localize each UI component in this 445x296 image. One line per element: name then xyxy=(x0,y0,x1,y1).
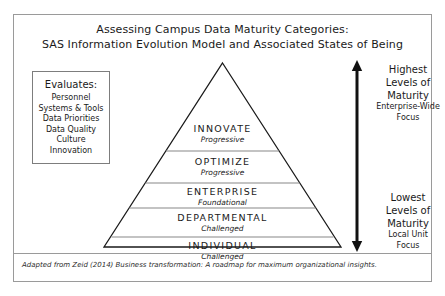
lowest-sub-line: Focus xyxy=(366,241,445,252)
tier-name: ENTERPRISE xyxy=(100,186,345,198)
maturity-pyramid: INNOVATE Progressive OPTIMIZE Progressiv… xyxy=(100,59,345,254)
highest-maturity-label: Highest Levels of Maturity Enterprise-Wi… xyxy=(366,63,445,123)
tier-name: OPTIMIZE xyxy=(100,156,345,168)
figure-container: Assessing Campus Data Maturity Categorie… xyxy=(13,14,432,282)
evaluates-item: Data Priorities xyxy=(35,114,107,125)
lowest-title-line: Maturity xyxy=(366,217,445,230)
evaluates-item: Data Quality xyxy=(35,125,107,136)
highest-sub-line: Focus xyxy=(366,113,445,124)
evaluates-item: Systems & Tools xyxy=(35,104,107,115)
evaluates-item: Culture xyxy=(35,135,107,146)
highest-sub-line: Enterprise-Wide xyxy=(366,102,445,113)
evaluates-item: Innovation xyxy=(35,146,107,157)
evaluates-item: Personnel xyxy=(35,93,107,104)
tier-state: Progressive xyxy=(100,168,345,178)
lowest-title-line: Levels of xyxy=(366,204,445,217)
double-headed-vertical-arrow-icon xyxy=(350,60,364,252)
tier-innovate: INNOVATE Progressive xyxy=(100,123,345,145)
title-line-2: SAS Information Evolution Model and Asso… xyxy=(14,37,431,52)
tier-optimize: OPTIMIZE Progressive xyxy=(100,156,345,178)
highest-title-line: Highest xyxy=(366,63,445,76)
tier-state: Foundational xyxy=(100,198,345,208)
tier-enterprise: ENTERPRISE Foundational xyxy=(100,186,345,208)
lowest-maturity-label: Lowest Levels of Maturity Local Unit Foc… xyxy=(366,191,445,251)
footer-divider xyxy=(14,253,431,254)
highest-title-line: Maturity xyxy=(366,89,445,102)
tier-individual: INDIVIDUAL Challenged xyxy=(100,240,345,262)
maturity-axis-arrow xyxy=(350,60,364,252)
highest-title-line: Levels of xyxy=(366,76,445,89)
tier-name: INNOVATE xyxy=(100,123,345,135)
tier-state: Challenged xyxy=(100,224,345,234)
lowest-sub-line: Local Unit xyxy=(366,230,445,241)
figure-title: Assessing Campus Data Maturity Categorie… xyxy=(14,22,431,52)
tier-name: INDIVIDUAL xyxy=(100,240,345,252)
evaluates-panel: Evaluates: Personnel Systems & Tools Dat… xyxy=(32,71,110,164)
title-line-1: Assessing Campus Data Maturity Categorie… xyxy=(14,22,431,37)
tier-state: Progressive xyxy=(100,135,345,145)
evaluates-heading: Evaluates: xyxy=(35,78,107,91)
source-citation: Adapted from Zeid (2014) Business transf… xyxy=(22,260,377,270)
tier-departmental: DEPARTMENTAL Challenged xyxy=(100,212,345,234)
tier-name: DEPARTMENTAL xyxy=(100,212,345,224)
lowest-title-line: Lowest xyxy=(366,191,445,204)
